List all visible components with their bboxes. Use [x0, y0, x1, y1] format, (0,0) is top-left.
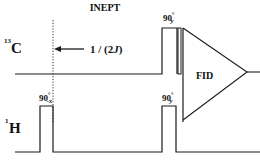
proton-symbol: H [9, 120, 21, 136]
proton-channel-label: 1 H [5, 117, 21, 136]
carbon-refocus-bar [178, 28, 181, 74]
carbon-channel-label: 13 C [4, 37, 22, 56]
proton-first-pulse-label: 90°-x [39, 92, 53, 105]
fid-triangle [183, 28, 247, 120]
diagram-title: INEPT [90, 2, 121, 13]
carbon-symbol: C [11, 40, 22, 56]
fid-label: FID [196, 70, 213, 81]
proton-second-pulse-label: 90°y [162, 92, 174, 105]
carbon-pulse-label: 90°y [163, 12, 175, 25]
proton-baseline-with-pulses [15, 106, 260, 152]
inept-pulse-sequence-diagram: INEPT 13 C 1 H 1 / (2J) FID 90°y 90°-x 9… [0, 0, 260, 165]
delay-arrow [54, 46, 84, 52]
delay-label: 1 / (2J) [90, 43, 123, 56]
arrowhead-left-icon [54, 46, 61, 52]
